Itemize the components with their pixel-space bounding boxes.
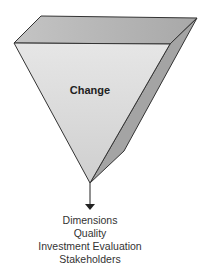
down-arrow-head-icon	[85, 204, 95, 210]
pyramid-label: Change	[70, 84, 110, 96]
output-item-investment-evaluation: Investment Evaluation	[0, 240, 180, 253]
pyramid-top-face	[14, 16, 197, 44]
pyramid-front-face	[14, 43, 170, 183]
output-list: Dimensions Quality Investment Evaluation…	[0, 214, 180, 266]
output-item-stakeholders: Stakeholders	[0, 253, 180, 266]
output-item-quality: Quality	[0, 227, 180, 240]
output-item-dimensions: Dimensions	[0, 214, 180, 227]
